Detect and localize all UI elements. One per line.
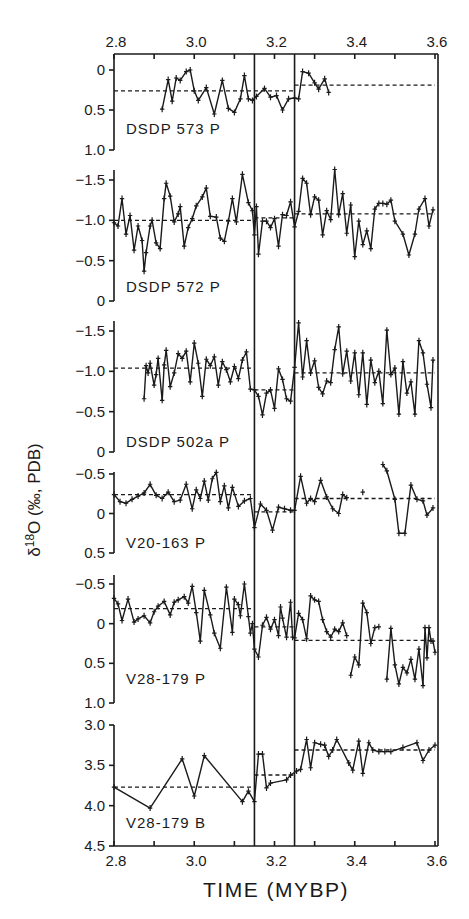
data-point-marker: [427, 223, 431, 229]
data-point-marker: [296, 320, 300, 326]
y-tick-label: −0.5: [75, 252, 105, 269]
data-point-marker: [322, 742, 326, 748]
data-series-line: [114, 584, 347, 657]
data-point-marker: [272, 405, 276, 411]
panel-dsdp-572-p: −1.5−1.0−0.50DSDP 572 P: [75, 167, 435, 309]
data-point-marker: [140, 238, 144, 244]
data-point-marker: [116, 223, 120, 229]
data-point-marker: [413, 411, 417, 417]
data-point-marker: [208, 612, 212, 618]
data-point-marker: [190, 583, 194, 589]
data-point-marker: [300, 69, 304, 75]
data-point-marker: [345, 633, 349, 639]
data-point-marker: [148, 360, 152, 366]
data-point-marker: [212, 111, 216, 117]
data-point-marker: [320, 617, 324, 623]
data-point-marker: [328, 380, 332, 386]
data-point-marker: [222, 483, 226, 489]
x-tick-label-top: 3.2: [266, 33, 287, 50]
data-point-marker: [324, 378, 328, 384]
data-point-marker: [345, 230, 349, 236]
data-point-marker: [172, 599, 176, 605]
data-series-line: [351, 603, 379, 675]
data-point-marker: [337, 324, 341, 330]
data-point-marker: [146, 370, 150, 376]
data-point-marker: [407, 252, 411, 258]
data-point-marker: [242, 581, 246, 587]
data-point-marker: [214, 214, 218, 220]
data-point-marker: [288, 599, 292, 605]
data-point-marker: [326, 89, 330, 95]
data-point-marker: [152, 382, 156, 388]
data-point-marker: [230, 484, 234, 490]
data-point-marker: [300, 374, 304, 380]
data-point-marker: [282, 506, 286, 512]
data-point-marker: [308, 370, 312, 376]
data-point-marker: [308, 212, 312, 218]
y-tick-label: −1.0: [75, 362, 105, 379]
data-point-marker: [236, 376, 240, 382]
x-tick-label-top: 3.6: [427, 33, 448, 50]
data-point-marker: [256, 751, 260, 757]
y-tick-label: 1.0: [84, 694, 105, 711]
y-tick-label: 0: [97, 292, 105, 309]
data-point-marker: [349, 672, 353, 678]
data-point-marker: [246, 96, 250, 102]
data-point-marker: [156, 355, 160, 361]
data-point-marker: [126, 596, 130, 602]
data-point-marker: [341, 371, 345, 377]
data-point-marker: [136, 223, 140, 229]
data-point-marker: [170, 98, 174, 104]
y-tick-label: 0.5: [84, 654, 105, 671]
data-point-marker: [190, 506, 194, 512]
data-point-marker: [144, 250, 148, 256]
data-point-marker: [220, 77, 224, 83]
data-point-marker: [332, 167, 336, 173]
panel-label: DSDP 572 P: [126, 278, 221, 295]
data-point-marker: [198, 638, 202, 644]
y-tick-label: 0: [97, 505, 105, 522]
data-point-marker: [298, 473, 302, 479]
data-point-marker: [288, 199, 292, 205]
data-point-marker: [417, 338, 421, 344]
y-tick-label: −0.5: [75, 575, 105, 592]
data-point-marker: [284, 396, 288, 402]
data-series-line: [114, 472, 347, 530]
data-point-marker: [162, 362, 166, 368]
data-point-marker: [401, 359, 405, 365]
data-point-marker: [168, 193, 172, 199]
data-point-marker: [403, 530, 407, 536]
data-point-marker: [413, 231, 417, 237]
data-point-marker: [429, 405, 433, 411]
data-point-marker: [132, 247, 136, 253]
data-point-marker: [349, 202, 353, 208]
data-point-marker: [421, 683, 425, 689]
data-point-marker: [357, 738, 361, 744]
panel-label: DSDP 502a P: [126, 433, 230, 450]
data-point-marker: [120, 617, 124, 623]
data-point-marker: [154, 372, 158, 378]
data-point-marker: [337, 511, 341, 517]
data-point-marker: [278, 604, 282, 610]
y-tick-label: −0.5: [75, 403, 105, 420]
data-point-marker: [433, 649, 437, 655]
data-point-marker: [208, 213, 212, 219]
data-point-marker: [142, 268, 146, 274]
data-point-marker: [421, 350, 425, 356]
y-tick-label: 4.0: [84, 797, 105, 814]
data-point-marker: [160, 106, 164, 112]
data-point-marker: [369, 246, 373, 252]
data-point-marker: [298, 766, 302, 772]
data-point-marker: [397, 411, 401, 417]
data-point-marker: [112, 784, 116, 790]
x-tick-label-top: 3.4: [346, 33, 367, 50]
data-point-marker: [397, 530, 401, 536]
data-point-marker: [280, 212, 284, 218]
data-point-marker: [248, 630, 252, 636]
panels-group: 00.51.0DSDP 573 P−1.5−1.0−0.50DSDP 572 P…: [75, 54, 437, 854]
panel-dsdp-502a-p: −1.5−1.0−0.50DSDP 502a P: [75, 320, 435, 460]
data-point-marker: [413, 676, 417, 682]
data-point-marker: [377, 624, 381, 630]
data-point-marker: [409, 656, 413, 662]
data-point-marker: [148, 223, 152, 229]
